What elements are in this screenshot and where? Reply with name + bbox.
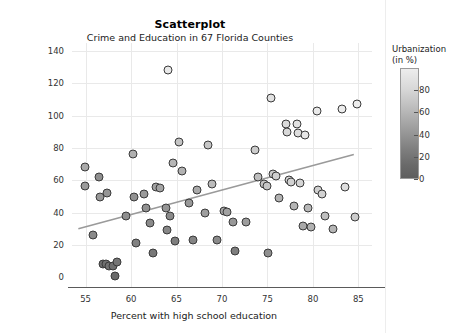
y-tick-label: 100 xyxy=(34,111,64,121)
colorbar-tick-label: 80 xyxy=(419,85,430,95)
x-axis-label: Percent with high school education xyxy=(0,310,388,321)
data-point xyxy=(241,217,250,226)
y-tick-label: 80 xyxy=(34,143,64,153)
data-point xyxy=(95,173,104,182)
regression-line xyxy=(72,43,372,287)
y-tick-label: 120 xyxy=(34,78,64,88)
data-point xyxy=(296,178,305,187)
y-tick-label: 40 xyxy=(34,208,64,218)
data-point xyxy=(80,163,89,172)
colorbar-tick-label: 60 xyxy=(419,107,430,117)
data-point xyxy=(80,182,89,191)
data-point xyxy=(178,166,187,175)
data-point xyxy=(164,66,173,75)
data-point xyxy=(312,106,321,115)
plot-area xyxy=(72,43,372,287)
data-point xyxy=(264,249,273,258)
x-tick-label: 60 xyxy=(116,294,146,304)
data-point xyxy=(131,239,140,248)
data-point xyxy=(289,202,298,211)
data-point xyxy=(275,194,284,203)
data-point xyxy=(350,212,359,221)
data-point xyxy=(112,257,121,266)
data-point xyxy=(88,231,97,240)
data-point xyxy=(223,207,232,216)
data-point xyxy=(304,203,313,212)
x-tick-label: 55 xyxy=(71,294,101,304)
data-point xyxy=(129,192,138,201)
legend-title-line1: Urbanization xyxy=(392,44,446,54)
data-point xyxy=(318,190,327,199)
data-point xyxy=(262,182,271,191)
data-point xyxy=(148,249,157,258)
data-point xyxy=(170,236,179,245)
data-point xyxy=(307,223,316,232)
data-point xyxy=(328,224,337,233)
data-point xyxy=(340,182,349,191)
legend: Urbanization (in %) 020406080 xyxy=(392,44,462,194)
colorbar-tick-label: 0 xyxy=(419,174,424,184)
data-point xyxy=(230,247,239,256)
data-point xyxy=(139,190,148,199)
data-point xyxy=(228,218,237,227)
data-point xyxy=(193,186,202,195)
x-axis-line xyxy=(68,287,385,288)
data-point xyxy=(166,211,175,220)
data-point xyxy=(185,198,194,207)
data-point xyxy=(282,127,291,136)
scatterplot-figure: Scatterplot Crime and Education in 67 Fl… xyxy=(0,0,462,333)
data-point xyxy=(128,150,137,159)
data-point xyxy=(121,211,130,220)
data-point xyxy=(188,236,197,245)
x-tick-label: 85 xyxy=(343,294,373,304)
data-point xyxy=(146,219,155,228)
data-point xyxy=(293,119,302,128)
colorbar xyxy=(400,68,419,179)
data-point xyxy=(338,105,347,114)
y-tick-label: 60 xyxy=(34,175,64,185)
x-tick-label: 65 xyxy=(162,294,192,304)
data-point xyxy=(208,179,217,188)
colorbar-tick-label: 40 xyxy=(419,130,430,140)
data-point xyxy=(168,158,177,167)
data-point xyxy=(156,183,165,192)
x-axis-ticks: 55606570758085 xyxy=(0,294,462,310)
data-point xyxy=(141,203,150,212)
data-point xyxy=(204,140,213,149)
x-tick-label: 80 xyxy=(298,294,328,304)
legend-title-line2: (in %) xyxy=(392,55,417,65)
data-point xyxy=(162,226,171,235)
data-point xyxy=(213,236,222,245)
data-point xyxy=(200,208,209,217)
data-point xyxy=(271,171,280,180)
data-point xyxy=(102,189,111,198)
data-point xyxy=(353,100,362,109)
colorbar-tick-label: 20 xyxy=(419,152,430,162)
y-tick-label: 0 xyxy=(34,272,64,282)
data-point xyxy=(175,137,184,146)
data-point xyxy=(300,131,309,140)
data-point xyxy=(320,211,329,220)
data-point xyxy=(267,93,276,102)
y-tick-label: 140 xyxy=(34,46,64,56)
data-point xyxy=(110,271,119,280)
data-point xyxy=(287,177,296,186)
y-tick-label: 20 xyxy=(34,240,64,250)
data-point xyxy=(250,146,259,155)
x-tick-label: 70 xyxy=(207,294,237,304)
panel-divider xyxy=(385,0,386,333)
x-tick-label: 75 xyxy=(252,294,282,304)
y-axis-ticks: 020406080100120140 xyxy=(34,0,64,333)
